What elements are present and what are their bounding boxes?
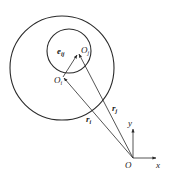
label-origin: O (125, 160, 132, 170)
label-O-j: Oj (81, 45, 90, 56)
outer-circle (10, 16, 114, 120)
vector-e-ij (63, 55, 77, 77)
label-e-ij: eij (57, 46, 65, 57)
label-y-axis: y (127, 118, 132, 128)
label-r-j: rj (112, 103, 118, 114)
vector-r-j (79, 54, 133, 158)
diagram-canvas: eij Oj Oi rj ri y x O (0, 0, 178, 178)
label-r-i: ri (86, 114, 92, 125)
label-x-axis: x (155, 160, 160, 170)
label-O-i: Oi (54, 75, 63, 86)
